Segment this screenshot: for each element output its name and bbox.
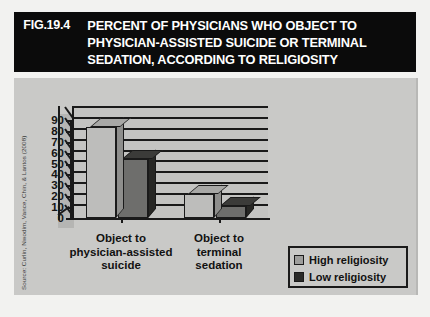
category-label-line: Object to xyxy=(159,232,279,246)
category-label-line: terminal xyxy=(159,246,279,260)
title-line-2: PHYSICIAN-ASSISTED SUICIDE OR TERMINAL xyxy=(87,34,366,51)
legend-item-high-religiosity[interactable]: High religiosity xyxy=(294,251,402,268)
bar-high-religiosity xyxy=(184,194,214,218)
y-axis-back-line xyxy=(58,106,60,220)
figure-title: PERCENT OF PHYSICIANS WHO OBJECT TO PHYS… xyxy=(74,15,367,68)
legend-item-low-religiosity[interactable]: Low religiosity xyxy=(294,268,402,285)
y-axis-tick-label: 90 xyxy=(30,114,69,126)
figure-container: FIG.19.4 PERCENT OF PHYSICIANS WHO OBJEC… xyxy=(0,0,430,317)
legend-label-high: High religiosity xyxy=(309,254,388,266)
y-axis-tick-label: 20 xyxy=(30,190,69,202)
y-axis-tick-label: 50 xyxy=(30,158,69,170)
x-axis-line xyxy=(70,218,270,220)
bar-front-face xyxy=(86,127,116,218)
figure-title-bar: FIG.19.4 PERCENT OF PHYSICIANS WHO OBJEC… xyxy=(14,12,416,72)
y-axis-tick-label: 0 xyxy=(30,212,69,224)
legend-swatch-icon-high xyxy=(294,255,304,265)
bar-side-face xyxy=(116,117,124,218)
legend-swatch-icon-low xyxy=(294,272,304,282)
chart-legend: High religiosity Low religiosity xyxy=(288,246,408,288)
category-label-line: sedation xyxy=(159,259,279,273)
source-note-text: Source: Curlin, Nwodim, Vance, Chin, & L… xyxy=(20,136,27,290)
y-axis-tick-label: 60 xyxy=(30,147,69,159)
y-axis-tick-label: 80 xyxy=(30,125,69,137)
bar-side-face xyxy=(148,150,156,218)
figure-number: FIG.19.4 xyxy=(14,15,70,32)
y-axis-line xyxy=(70,120,72,220)
bar-front-face xyxy=(184,194,214,218)
gridline xyxy=(72,106,268,108)
y-axis-tick-label: 30 xyxy=(30,179,69,191)
x-axis-tick xyxy=(219,218,221,223)
bar-high-religiosity xyxy=(86,127,116,218)
x-axis-tick xyxy=(121,218,123,223)
y-axis-tick-label: 70 xyxy=(30,136,69,148)
y-axis-tick-label: 40 xyxy=(30,168,69,180)
category-label: Object toterminalsedation xyxy=(159,232,279,273)
plot-area: 0102030405060708090 xyxy=(50,98,286,228)
legend-label-low: Low religiosity xyxy=(309,271,386,283)
title-line-3: SEDATION, ACCORDING TO RELIGIOSITY xyxy=(87,51,366,68)
title-line-1: PERCENT OF PHYSICIANS WHO OBJECT TO xyxy=(87,17,366,34)
